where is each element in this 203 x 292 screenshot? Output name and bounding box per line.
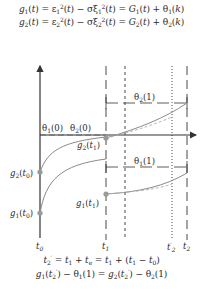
tick-t2: t2 <box>183 241 190 252</box>
label-theta2-1: θ2(1) <box>134 92 155 103</box>
tick-t1: t1 <box>102 241 109 252</box>
tick-t0: t0 <box>36 241 43 252</box>
label-g2-t0: g2(t0) <box>10 168 33 179</box>
tick-t2-prime: t′2 <box>167 241 176 253</box>
g1-dashed-curve <box>106 184 172 194</box>
label-theta1-1: θ1(1) <box>134 156 155 167</box>
g1-curve-phase1 <box>106 173 187 194</box>
label-theta1-0: θ1(0) <box>42 123 63 134</box>
equation-t2-prime: t2′ = t1 + te = t1 + (t1 − t0) <box>0 254 203 266</box>
g1-t0-marker <box>37 210 42 215</box>
label-g1-t1: g1(t1) <box>76 198 99 209</box>
g2-curve-phase1 <box>106 103 187 138</box>
label-g2-t1: g2(t1) <box>77 140 100 151</box>
g2-t1-marker <box>103 135 108 140</box>
equation-balance: g1(t2′) − θ1(1) = g2(t2′) − θ2(1) <box>0 268 203 280</box>
g1-t1-marker <box>103 191 108 196</box>
label-g1-t0: g1(t0) <box>10 208 33 219</box>
g2-t0-marker <box>37 169 42 174</box>
label-theta2-0: θ2(0) <box>70 123 91 134</box>
